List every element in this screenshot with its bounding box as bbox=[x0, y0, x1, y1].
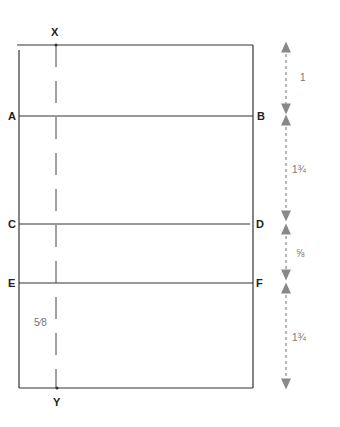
dimension-2: 1¾ bbox=[292, 165, 306, 175]
dimension-3: ⅝ bbox=[296, 249, 304, 259]
dimension-arrows bbox=[282, 43, 290, 388]
label-c: C bbox=[8, 219, 16, 230]
label-f: F bbox=[256, 278, 263, 289]
dimension-1: 1 bbox=[300, 73, 306, 83]
label-x: X bbox=[51, 27, 58, 38]
dimension-4: 1¾ bbox=[292, 333, 306, 343]
pattern-diagram bbox=[0, 0, 340, 427]
label-y: Y bbox=[53, 397, 60, 408]
label-b: B bbox=[257, 111, 265, 122]
label-d: D bbox=[256, 219, 264, 230]
label-e: E bbox=[8, 278, 15, 289]
label-a: A bbox=[8, 111, 16, 122]
inner-annotation: 5⁄8 bbox=[34, 318, 47, 328]
point-x bbox=[55, 44, 58, 47]
point-y bbox=[56, 387, 59, 390]
